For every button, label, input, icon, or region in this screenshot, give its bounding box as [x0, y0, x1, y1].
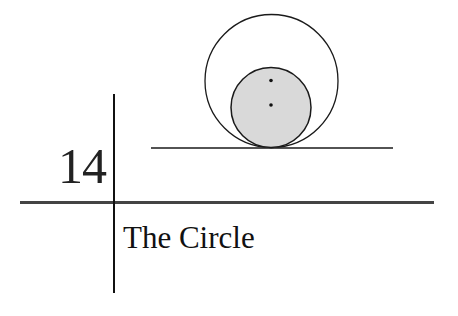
chapter-title: The Circle — [123, 219, 255, 257]
outer-center-point — [269, 79, 273, 83]
chapter-number: 14 — [58, 138, 106, 194]
horizontal-rule — [20, 201, 434, 204]
chapter-opening-page: 14 The Circle — [0, 0, 458, 316]
inner-center-point — [269, 103, 273, 107]
vertical-rule — [113, 94, 115, 293]
